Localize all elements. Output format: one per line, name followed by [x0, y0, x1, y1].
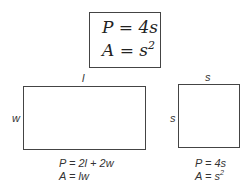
- rectangle-area-formula: A = lw: [59, 170, 89, 182]
- square-perimeter-formula: P = 4s: [195, 157, 226, 169]
- equals-sign: =: [113, 17, 138, 37]
- perimeter-symbol: P: [102, 17, 113, 37]
- area-symbol: A: [102, 40, 114, 60]
- equals-sign: =: [114, 40, 139, 60]
- rectangle-perimeter-formula: P = 2l + 2w: [59, 157, 114, 169]
- square-left-side-label: s: [170, 112, 176, 124]
- square-area-formula-large: A = s2: [102, 39, 155, 61]
- area-exponent: 2: [148, 39, 155, 52]
- rectangle-shape: [23, 86, 146, 150]
- square-shape: [178, 84, 240, 148]
- square-area-formula: A = s2: [195, 170, 224, 182]
- square-area-exponent: 2: [220, 169, 224, 177]
- rectangle-length-label: l: [82, 72, 84, 84]
- square-top-side-label: s: [205, 71, 211, 83]
- rectangle-width-label: w: [12, 112, 20, 124]
- perimeter-expression: 4s: [139, 17, 159, 37]
- square-area-base: A = s: [195, 170, 220, 182]
- area-base: s: [139, 40, 148, 60]
- square-perimeter-formula-large: P = 4s: [102, 16, 158, 38]
